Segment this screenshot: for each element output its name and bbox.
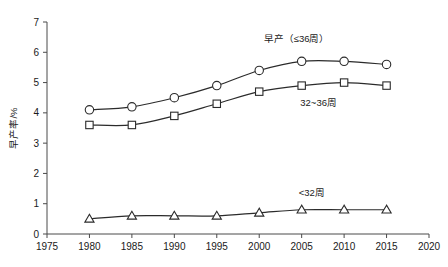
data-point-circle <box>340 57 348 65</box>
data-point-circle <box>255 66 263 74</box>
data-point-square <box>298 82 305 89</box>
series-annotation-label: <32周 <box>299 187 325 198</box>
series-annotation-label: 早产（≤36周） <box>264 33 330 44</box>
data-point-circle <box>213 81 221 89</box>
data-point-square <box>128 121 135 128</box>
data-point-square <box>213 100 220 107</box>
line-chart: 01234567 1975198019851990199520002005201… <box>0 0 448 267</box>
x-tick-label: 1985 <box>121 241 144 252</box>
x-tick-label: 1995 <box>206 241 229 252</box>
x-tick-label: 2020 <box>418 241 441 252</box>
data-point-square <box>340 79 347 86</box>
x-tick-label: 2010 <box>333 241 356 252</box>
y-tick-label: 2 <box>33 168 39 179</box>
y-tick-label: 0 <box>33 229 39 240</box>
x-tick-label: 2015 <box>375 241 398 252</box>
x-tick-label: 2000 <box>248 241 271 252</box>
chart-container: 01234567 1975198019851990199520002005201… <box>0 0 448 267</box>
data-point-circle <box>297 57 305 65</box>
y-tick-label: 7 <box>33 17 39 28</box>
y-tick-label: 3 <box>33 138 39 149</box>
x-tick-label: 1980 <box>78 241 101 252</box>
data-point-square <box>256 88 263 95</box>
plot-background <box>0 0 448 267</box>
y-axis-title: 早产率/% <box>8 107 19 149</box>
x-tick-label: 1975 <box>36 241 59 252</box>
data-point-circle <box>382 60 390 68</box>
y-tick-label: 6 <box>33 47 39 58</box>
data-point-square <box>86 121 93 128</box>
series-annotation-label: 32~36周 <box>300 97 337 108</box>
x-tick-label: 2005 <box>291 241 314 252</box>
data-point-circle <box>85 106 93 114</box>
y-tick-label: 5 <box>33 77 39 88</box>
data-point-square <box>383 82 390 89</box>
y-tick-label: 4 <box>33 107 39 118</box>
y-axis-title-text: 早产率/% <box>8 107 19 149</box>
data-point-circle <box>170 94 178 102</box>
data-point-circle <box>128 103 136 111</box>
data-point-square <box>171 112 178 119</box>
x-tick-label: 1990 <box>163 241 186 252</box>
y-tick-label: 1 <box>33 198 39 209</box>
